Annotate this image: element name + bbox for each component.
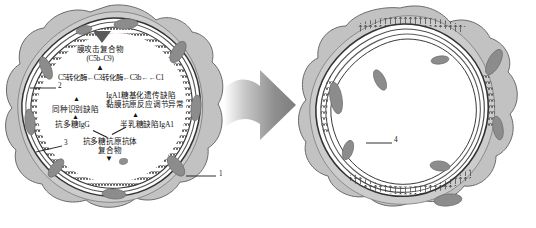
iga1-defect-line2-label: 黏膜抗原反应调节异常 [106, 101, 184, 109]
capillary-loop-diagram-left [0, 0, 230, 228]
gd-iga1-label: 半乳糖缺陷IgA1 [120, 121, 174, 129]
arrow-up-iga1-icon: ▲ [132, 112, 139, 119]
figure-canvas: 膜攻击复合物 (C5b–C9) ▲ C5转化酶←C3转化酶←C3b←←C1 Ig… [0, 0, 536, 228]
arrow-up-igg-icon: ▲ [72, 114, 79, 121]
membrane-attack-triangle-icon [93, 31, 111, 43]
left-diagram-panel: 膜攻击复合物 (C5b–C9) ▲ C5转化酶←C3转化酶←C3b←←C1 Ig… [0, 0, 230, 228]
arrow-up-to-mac-icon: ▲ [96, 64, 104, 72]
anti-polysaccharide-igg-label: 抗多糖IgG [55, 121, 90, 129]
callout-2-label: 2 [58, 83, 61, 91]
right-diagram-panel: 4 [288, 0, 536, 228]
immune-complex-line1-label: 抗多糖抗原抗体 [62, 138, 158, 146]
iga1-defect-line1-label: IgA1糖基化遗传缺陷 [106, 92, 175, 100]
arrow-down-to-deposit-icon: ▼ [105, 155, 113, 163]
callout-1-label: 1 [219, 171, 222, 179]
callout-3-label: 3 [64, 140, 67, 148]
capillary-loop-diagram-right [288, 0, 536, 228]
arrow-up-allo-icon: ▲ [73, 96, 80, 103]
complement-chain-label: C5转化酶←C3转化酶←C3b←←C1 [58, 74, 164, 82]
callout-4-label: 4 [394, 137, 397, 145]
mac-title-label: 膜攻击复合物 [44, 46, 156, 54]
